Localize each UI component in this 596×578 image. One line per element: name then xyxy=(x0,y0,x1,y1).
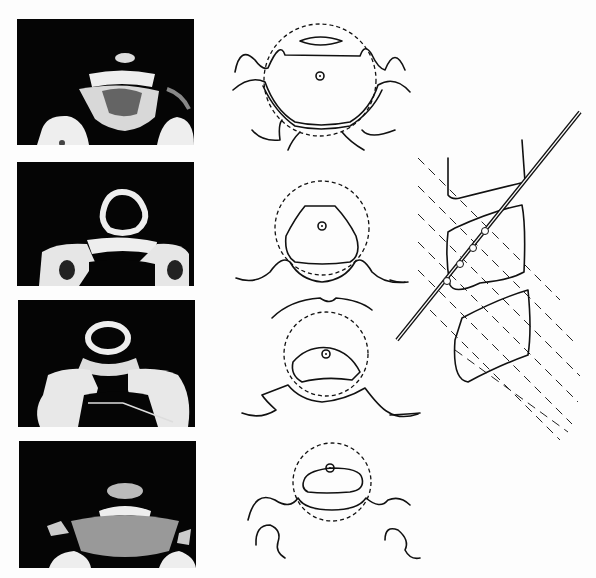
needle-marker xyxy=(444,278,451,285)
needle-tip-dot xyxy=(321,225,323,227)
scan-plane xyxy=(418,158,560,300)
upper-arch xyxy=(272,298,372,318)
needle-tip-dot xyxy=(325,353,327,355)
needle-tip-dot xyxy=(329,467,331,469)
needle-marker xyxy=(457,261,464,268)
scan-planes xyxy=(418,158,580,440)
schematic-drawings xyxy=(0,0,596,578)
vertebral-body-outline xyxy=(286,206,358,264)
schematic-2 xyxy=(236,181,408,283)
schematic-1 xyxy=(233,24,410,150)
schematic-4 xyxy=(248,443,420,558)
right-root xyxy=(342,132,364,150)
needle-tip-dot xyxy=(319,75,321,77)
anterior-contour xyxy=(233,80,410,125)
left-root xyxy=(288,132,300,150)
schematic-3 xyxy=(242,298,418,417)
posterior-contour xyxy=(235,49,405,72)
right-lower-process xyxy=(385,529,420,559)
left-lower-process xyxy=(252,120,282,140)
scan-plane xyxy=(455,350,568,432)
scan-plane xyxy=(430,310,560,440)
left-lower-process xyxy=(256,525,285,558)
vertebral-body-outline xyxy=(292,348,360,382)
middle-vertebra xyxy=(447,205,525,290)
lower-vertebra xyxy=(455,290,530,382)
lamina-contour xyxy=(242,385,418,417)
upper-vertebra xyxy=(448,140,525,199)
sagittal-diagram xyxy=(390,112,580,440)
scan-plane xyxy=(418,186,575,343)
right-lower-process xyxy=(362,130,395,135)
lamina-contour xyxy=(248,498,410,521)
needle-marker xyxy=(482,228,489,235)
spinal-canal-outline xyxy=(300,37,342,45)
needle-marker xyxy=(470,245,477,252)
scan-plane xyxy=(418,270,572,424)
